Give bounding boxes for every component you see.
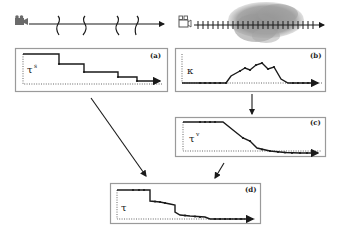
video-camera-icon — [179, 16, 191, 27]
diagram-canvas: τ s (a) κ (b) τ v — [0, 0, 345, 237]
panel-c: τ v (c) — [176, 118, 326, 157]
panel-a: τ s (a) — [16, 49, 168, 92]
top-left-timeline — [15, 15, 164, 35]
arrow-c-to-d — [215, 163, 224, 178]
video-camera-icon — [15, 15, 28, 25]
panel-b-symbol: κ — [187, 65, 194, 76]
panel-a-superscript: s — [34, 62, 37, 69]
panel-c-superscript: v — [195, 130, 200, 137]
cut-marks — [57, 16, 139, 35]
panel-c-label: (c) — [310, 118, 321, 127]
panel-a-label: (a) — [150, 51, 161, 60]
panel-a-symbol: τ — [27, 64, 33, 75]
top-right-timeline — [179, 2, 324, 43]
panel-d: τ (d) — [111, 184, 261, 224]
panel-d-label: (d) — [245, 185, 257, 194]
panel-d-symbol: τ — [121, 202, 127, 213]
panel-b: κ (b) — [176, 49, 326, 92]
arrow-a-to-d — [91, 98, 146, 176]
panel-b-label: (b) — [310, 51, 322, 60]
panel-c-symbol: τ — [189, 133, 195, 144]
